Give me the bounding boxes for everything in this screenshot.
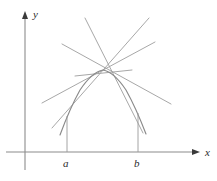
point-label-a: a: [63, 157, 69, 169]
point-label-b: b: [134, 157, 140, 169]
drop-lines-group: [67, 113, 138, 152]
math-figure-svg: y x a b: [0, 0, 217, 181]
x-axis-arrow-icon: [192, 149, 200, 155]
x-axis-label: x: [204, 146, 210, 158]
y-axis-arrow-icon: [22, 11, 28, 19]
tangent-line-4: [62, 44, 171, 104]
figure-container: y x a b: [0, 0, 217, 181]
y-axis-group: y: [22, 8, 38, 170]
tangent-line-3: [42, 42, 155, 103]
x-axis-group: x: [6, 146, 210, 158]
concave-curve-path: [60, 70, 146, 135]
tangent-line-5: [75, 70, 132, 76]
tangent-lines-group: [42, 18, 171, 133]
y-axis-label: y: [32, 8, 38, 20]
